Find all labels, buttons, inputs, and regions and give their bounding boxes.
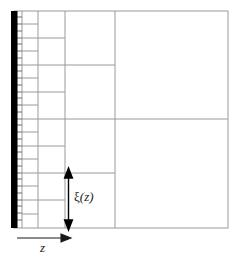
- cell-size-label: ξ(z): [74, 189, 94, 205]
- z-axis-label: z: [40, 240, 45, 256]
- cell-size-argument: (z): [80, 189, 94, 204]
- mesh-figure: ξ(z) z: [0, 0, 233, 259]
- wall-boundary: [11, 11, 18, 228]
- mesh-diagram-svg: [0, 0, 233, 259]
- z-axis-arrow-head: [61, 234, 71, 242]
